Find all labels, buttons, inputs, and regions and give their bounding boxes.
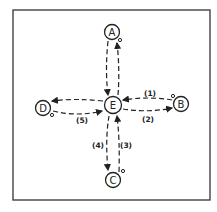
c-port-dot: [121, 169, 124, 172]
edge-label-5: (5): [76, 116, 88, 125]
b-port-dot: [171, 94, 174, 97]
edge-label-2: (2): [142, 115, 154, 124]
node-e-label: E: [110, 100, 116, 111]
node-b-label: B: [178, 99, 185, 110]
node-d: D: [36, 101, 51, 116]
edge-b-to-e: (1): [123, 89, 175, 101]
edge-a-to-e: [107, 41, 109, 95]
edge-e-to-a: [117, 38, 122, 95]
edge-label-3: (3): [120, 141, 132, 150]
star-network-diagram: (1) (2) (3) (4) (5) A B C D E: [0, 0, 217, 212]
edge-d-to-e: (5): [50, 111, 102, 125]
node-a: A: [105, 25, 120, 40]
node-e: E: [105, 97, 122, 114]
a-port-dot: [118, 38, 121, 41]
node-a-label: A: [109, 27, 116, 38]
edge-label-4: (4): [92, 141, 104, 150]
edge-e-to-b: (2): [123, 108, 172, 124]
edge-c-to-e: (3): [117, 116, 132, 173]
node-c-label: C: [110, 175, 117, 186]
d-port-dot: [50, 113, 53, 116]
node-d-label: D: [39, 103, 47, 114]
edge-label-1: (1): [144, 89, 156, 98]
edge-e-to-c: (4): [92, 116, 109, 170]
edge-e-to-d: [52, 100, 103, 102]
node-b: B: [174, 97, 189, 112]
node-c: C: [106, 173, 121, 188]
